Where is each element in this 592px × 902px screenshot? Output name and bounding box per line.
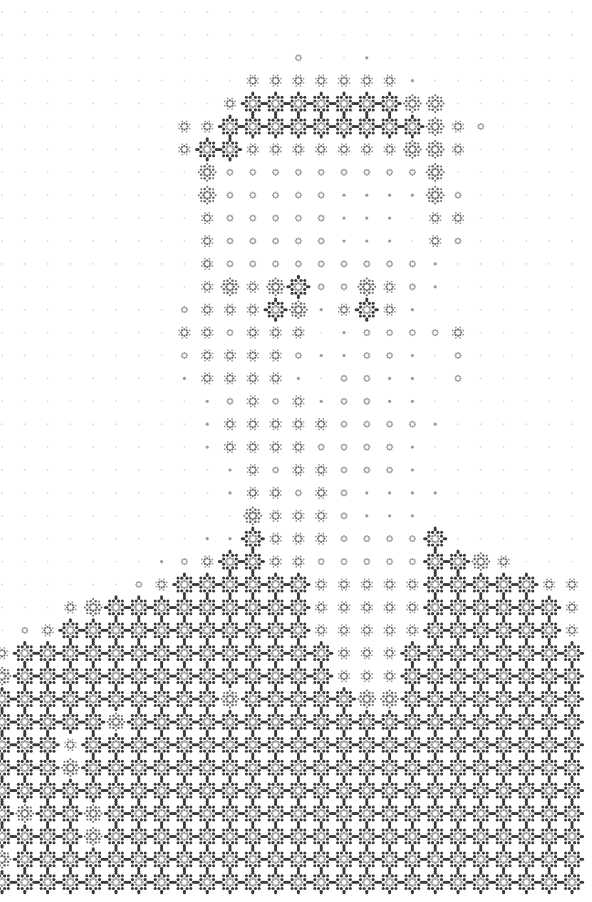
halftone-cell-faint-dot [47, 57, 49, 59]
halftone-cell-faint-dot [47, 126, 49, 128]
halftone-cell-faint-dot [298, 34, 300, 36]
halftone-cell-ring [272, 398, 279, 405]
halftone-cell-small-rosette [361, 670, 373, 682]
halftone-cell-large-rosette [332, 114, 356, 138]
halftone-cell-small-rosette [406, 578, 418, 590]
halftone-cell-faint-dot [47, 607, 49, 609]
halftone-cell-large-rosette [469, 572, 493, 596]
halftone-cell-large-rosette [81, 733, 105, 757]
halftone-cell-faint-dot [115, 240, 117, 242]
halftone-cell-faint-dot [571, 492, 573, 494]
halftone-cell-large-rosette [560, 824, 584, 848]
halftone-cell-faint-dot [92, 492, 94, 494]
halftone-cell-faint-dot [229, 34, 231, 36]
halftone-cell-large-rosette [195, 618, 219, 642]
halftone-cell-faint-dot [434, 309, 436, 311]
halftone-cell-small-dot [365, 514, 368, 517]
halftone-cell-large-rosette [150, 801, 174, 825]
halftone-cell-large-rosette [172, 756, 196, 780]
halftone-cell-small-rosette [384, 647, 396, 659]
halftone-cell-faint-dot [1, 171, 3, 173]
halftone-cell-large-rosette [469, 664, 493, 688]
halftone-cell-small-dot [228, 491, 231, 494]
halftone-cell-large-rosette [264, 114, 288, 138]
halftone-cell-small-rosette [452, 120, 464, 132]
halftone-cell-faint-dot [161, 80, 163, 82]
halftone-cell-large-rosette [13, 733, 37, 757]
halftone-cell-faint-dot [47, 492, 49, 494]
halftone-cell-faint-dot [161, 263, 163, 265]
halftone-cell-medium-rosette [426, 140, 445, 159]
halftone-cell-small-dot [388, 514, 391, 517]
halftone-cell-small-rosette [247, 372, 259, 384]
halftone-cell-small-rosette [224, 349, 236, 361]
halftone-cell-large-rosette [446, 710, 470, 734]
halftone-cell-small-rosette [338, 304, 350, 316]
halftone-cell-large-rosette [492, 572, 516, 596]
halftone-cell-faint-dot [503, 126, 505, 128]
halftone-cell-faint-dot [161, 194, 163, 196]
halftone-cell-faint-dot [47, 149, 49, 151]
halftone-cell-faint-dot [526, 286, 528, 288]
halftone-cell-faint-dot [138, 149, 140, 151]
halftone-cell-small-rosette [224, 418, 236, 430]
halftone-cell-large-rosette [264, 779, 288, 803]
halftone-cell-large-rosette [560, 779, 584, 803]
halftone-cell-faint-dot [47, 378, 49, 380]
halftone-cell-small-dot [434, 262, 437, 265]
halftone-cell-ring [318, 237, 325, 244]
halftone-cell-faint-dot [138, 11, 140, 13]
halftone-cell-faint-dot [115, 584, 117, 586]
halftone-cell-large-rosette [264, 641, 288, 665]
halftone-cell-ring [454, 192, 461, 199]
halftone-cell-large-rosette [0, 733, 14, 757]
halftone-cell-faint-dot [526, 378, 528, 380]
halftone-cell-faint-dot [526, 492, 528, 494]
halftone-cell-faint-dot [480, 400, 482, 402]
halftone-cell-faint-dot [526, 103, 528, 105]
halftone-cell-large-rosette [264, 618, 288, 642]
halftone-cell-small-dot [411, 400, 414, 403]
halftone-cell-large-rosette [241, 664, 265, 688]
halftone-cell-large-rosette [355, 92, 379, 116]
halftone-cell-faint-dot [70, 34, 72, 36]
halftone-cell-faint-dot [1, 538, 3, 540]
halftone-cell-faint-dot [184, 469, 186, 471]
halftone-cell-medium-rosette [61, 758, 80, 777]
halftone-cell-faint-dot [480, 515, 482, 517]
halftone-cell-large-rosette [58, 710, 82, 734]
halftone-cell-large-rosette [218, 847, 242, 871]
halftone-cell-large-rosette [378, 710, 402, 734]
halftone-cell-large-rosette [36, 847, 60, 871]
halftone-cell-medium-rosette [0, 667, 11, 686]
halftone-cell-faint-dot [70, 149, 72, 151]
halftone-cell-large-rosette [127, 710, 151, 734]
halftone-cell-faint-dot [184, 286, 186, 288]
halftone-cell-small-dot [388, 194, 391, 197]
halftone-cell-faint-dot [161, 57, 163, 59]
halftone-cell-medium-rosette [107, 713, 126, 732]
halftone-cell-small-dot [411, 514, 414, 517]
halftone-cell-ring [454, 237, 461, 244]
halftone-cell-large-rosette [58, 618, 82, 642]
halftone-cell-small-rosette [292, 418, 304, 430]
halftone-cell-faint-dot [138, 400, 140, 402]
halftone-cell-faint-dot [161, 103, 163, 105]
halftone-cell-large-rosette [150, 618, 174, 642]
halftone-cell-faint-dot [457, 538, 459, 540]
halftone-cell-large-rosette [492, 733, 516, 757]
halftone-cell-ring [226, 192, 233, 199]
halftone-cell-faint-dot [548, 492, 550, 494]
halftone-cell-faint-dot [1, 469, 3, 471]
halftone-cell-small-rosette [270, 556, 282, 568]
halftone-cell-faint-dot [115, 286, 117, 288]
halftone-cell-small-rosette [452, 212, 464, 224]
halftone-cell-ring [340, 512, 347, 519]
halftone-cell-faint-dot [343, 34, 345, 36]
halftone-cell-faint-dot [503, 538, 505, 540]
halftone-cell-faint-dot [24, 286, 26, 288]
halftone-cell-ring [318, 558, 325, 565]
halftone-cell-medium-rosette [84, 598, 103, 617]
halftone-cell-large-rosette [195, 595, 219, 619]
halftone-cell-large-rosette [172, 779, 196, 803]
